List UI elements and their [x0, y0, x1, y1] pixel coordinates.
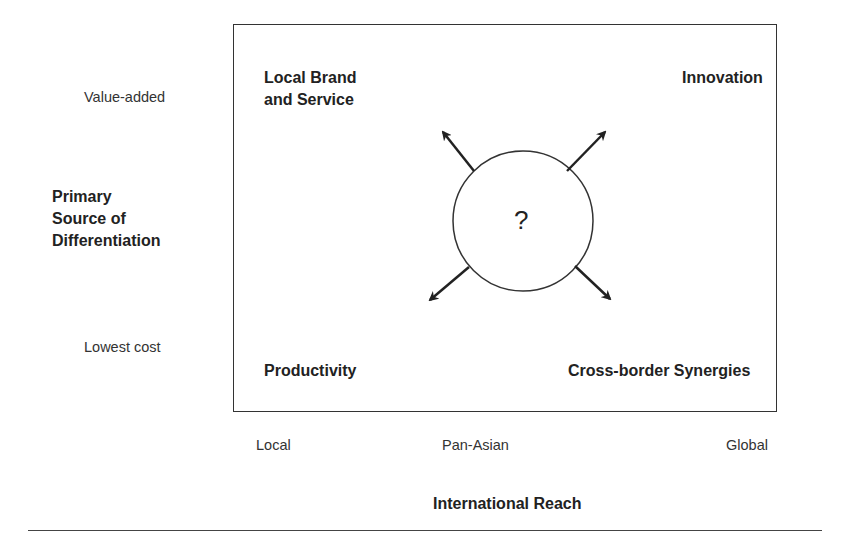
center-question-mark: ?: [514, 205, 528, 236]
x-tick-pan-asian: Pan-Asian: [442, 437, 509, 453]
x-tick-local: Local: [256, 437, 291, 453]
center-circle-arrows: [0, 0, 849, 537]
arrow-up-left-icon: [443, 132, 474, 171]
arrow-up-right-icon: [567, 132, 605, 171]
arrow-down-left-icon: [430, 267, 469, 300]
bottom-divider: [28, 530, 822, 531]
x-tick-global: Global: [726, 437, 768, 453]
arrow-down-right-icon: [575, 266, 610, 299]
x-axis-title: International Reach: [433, 493, 581, 515]
